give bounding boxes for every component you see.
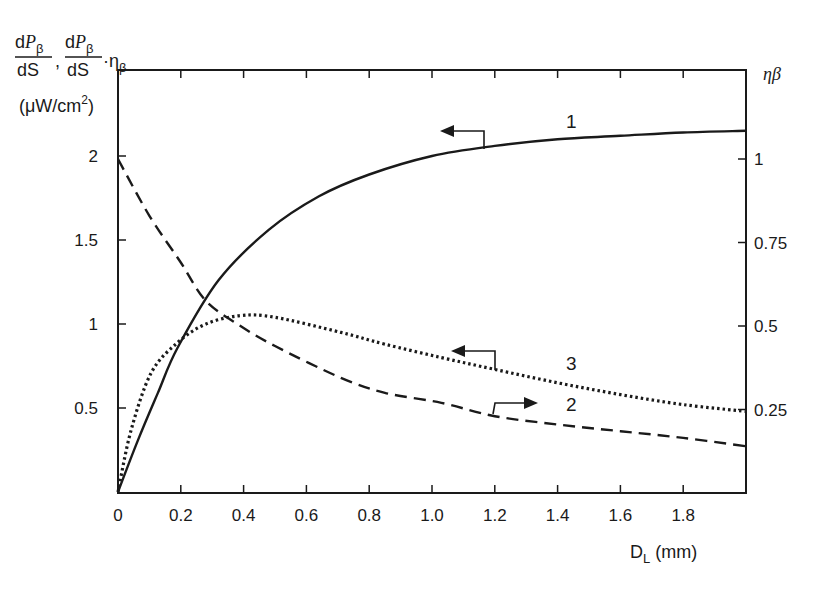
x-axis-title: DL(mm) bbox=[630, 542, 697, 566]
curve-3-arrow-left bbox=[451, 345, 495, 370]
y2-tick-label: 0.25 bbox=[754, 401, 787, 420]
y-axis-right-title: ηβ bbox=[763, 64, 781, 84]
curve-2-dashed bbox=[118, 159, 746, 446]
svg-text:dPβ: dPβ bbox=[15, 32, 44, 56]
y-tick-label: 2 bbox=[89, 147, 98, 166]
curve-3-label: 3 bbox=[566, 353, 577, 374]
y-tick-label: 0.5 bbox=[74, 399, 98, 418]
x-tick-label: 0.4 bbox=[232, 506, 256, 525]
curve-1-solid bbox=[118, 131, 746, 492]
svg-text:dPβ: dPβ bbox=[65, 32, 94, 56]
x-tick-label: 1.6 bbox=[609, 506, 633, 525]
y-tick-label: 1 bbox=[89, 315, 98, 334]
chart: 00.20.40.60.81.01.21.41.61.8 0.511.52 0.… bbox=[0, 0, 818, 591]
y-axis-left-title: dPβ dS , dPβ dS ·ηβ (μW/cm2) bbox=[15, 32, 127, 116]
y-tick-label: 1.5 bbox=[74, 231, 98, 250]
curve-3-dotted bbox=[118, 315, 746, 492]
svg-text:,: , bbox=[55, 51, 60, 71]
y2-tick-label: 0.5 bbox=[754, 317, 778, 336]
curve-2-label: 2 bbox=[566, 394, 577, 415]
svg-text:dS: dS bbox=[17, 60, 39, 80]
svg-text:(μW/cm2): (μW/cm2) bbox=[19, 93, 94, 116]
x-tick-label: 1.2 bbox=[483, 506, 507, 525]
x-tick-label: 0.2 bbox=[169, 506, 193, 525]
x-tick-label: 1.0 bbox=[420, 506, 444, 525]
x-tick-label: 1.8 bbox=[671, 506, 695, 525]
curve-1-label: 1 bbox=[566, 111, 577, 132]
x-tick-label: 1.4 bbox=[546, 506, 570, 525]
x-axis-ticks: 00.20.40.60.81.01.21.41.61.8 bbox=[113, 70, 695, 525]
x-tick-label: 0.8 bbox=[357, 506, 381, 525]
y2-tick-label: 1 bbox=[754, 150, 763, 169]
x-tick-label: 0 bbox=[113, 506, 122, 525]
y2-tick-label: 0.75 bbox=[754, 234, 787, 253]
x-tick-label: 0.6 bbox=[295, 506, 319, 525]
svg-text:dS: dS bbox=[67, 60, 89, 80]
curve-1-arrow-left bbox=[440, 125, 484, 149]
svg-text:·ηβ: ·ηβ bbox=[103, 51, 127, 75]
curve-2-arrow-right bbox=[493, 397, 538, 414]
